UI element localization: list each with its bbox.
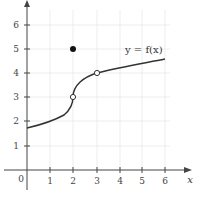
function-graph: 1 2 3 4 5 6 0 x 1 2 3 4 5 6 y = f(x) [0, 0, 200, 200]
y-tick-label: 5 [13, 44, 19, 54]
x-tick-label: 6 [162, 176, 168, 186]
y-tick-label: 2 [13, 116, 19, 126]
origin-label: 0 [18, 174, 24, 184]
y-tick-label: 4 [13, 68, 19, 78]
open-point [70, 94, 75, 99]
x-tick-label: 5 [139, 176, 145, 186]
x-axis-arrow-icon [184, 167, 192, 173]
x-tick-label: 4 [117, 176, 123, 186]
filled-point [70, 46, 76, 52]
x-tick-label: 3 [94, 176, 100, 186]
x-tick-labels: 1 2 3 4 5 6 [47, 176, 168, 186]
y-tick-label: 1 [13, 141, 19, 151]
x-axis-label: x [187, 174, 193, 185]
x-tick-label: 2 [70, 176, 76, 186]
y-tick-label: 3 [13, 92, 19, 102]
function-label: y = f(x) [124, 44, 163, 55]
y-tick-labels: 1 2 3 4 5 6 [13, 20, 19, 151]
grid [27, 10, 170, 170]
function-curve [27, 59, 165, 128]
x-tick-label: 1 [47, 176, 53, 186]
open-point [94, 70, 99, 75]
y-tick-label: 6 [13, 20, 19, 30]
y-axis-arrow-icon [24, 0, 30, 7]
